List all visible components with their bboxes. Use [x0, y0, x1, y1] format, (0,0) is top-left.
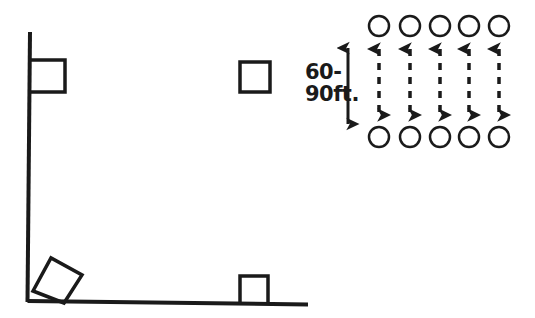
- square-bottom-right: [240, 276, 268, 304]
- corner-angle-marker: [33, 258, 82, 303]
- diagram-svg: 60- 90ft.: [0, 0, 535, 318]
- dimension-label-line-1: 60-: [305, 60, 341, 84]
- node-circle-bottom-2: [400, 127, 420, 147]
- dimension-label-line-2: 90ft.: [305, 82, 359, 106]
- vertical-line: [28, 32, 31, 302]
- square-floating: [240, 62, 270, 92]
- node-circle-top-5: [489, 16, 509, 36]
- square-top-left: [29, 60, 66, 92]
- node-circle-top-3: [430, 16, 450, 36]
- spacing-dimension: 60- 90ft.: [305, 48, 359, 124]
- node-circle-bottom-5: [489, 127, 509, 147]
- corner-structure: [28, 32, 309, 305]
- node-circle-bottom-4: [459, 127, 479, 147]
- node-circle-top-4: [459, 16, 479, 36]
- node-circle-top-2: [400, 16, 420, 36]
- diagram-canvas: 60- 90ft.: [0, 0, 535, 318]
- node-circle-bottom-3: [430, 127, 450, 147]
- node-circle-top-1: [369, 16, 389, 36]
- horizontal-line: [28, 301, 309, 305]
- node-spacing-grid: [369, 16, 509, 147]
- node-circle-bottom-1: [369, 127, 389, 147]
